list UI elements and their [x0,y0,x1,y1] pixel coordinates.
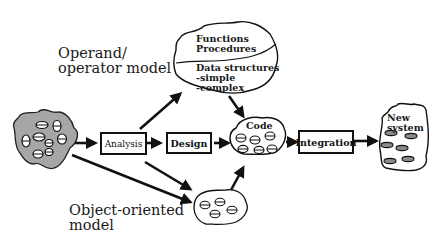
cloud-upper-text: Functions Procedures [196,34,256,54]
integration-box: Integration [298,130,354,154]
code-label: Code [246,121,273,131]
complex-text: -complex [196,83,279,93]
operand-model-line2: operator model [58,61,171,76]
cloud-lower-text: Data structures -simple -complex [196,63,279,93]
object-model-line1: Object-oriented [69,203,184,218]
source-system-blob [13,110,77,169]
new-system-label: New system [387,113,424,133]
analysis-box: Analysis [100,132,147,155]
object-blob [194,190,247,225]
object-oriented-model-label: Object-oriented model [69,203,184,233]
design-label: Design [171,138,208,149]
operand-model-line1: Operand/ [58,46,171,61]
diagram-canvas: Operand/ operator model Object-oriented … [0,0,436,244]
design-box: Design [166,132,212,154]
operand-model-label: Operand/ operator model [58,46,171,76]
analysis-label: Analysis [105,139,143,149]
procedures-text: Procedures [196,44,256,54]
integration-label: Integration [296,137,357,148]
object-model-line2: model [69,218,184,233]
system-text: system [387,123,424,133]
